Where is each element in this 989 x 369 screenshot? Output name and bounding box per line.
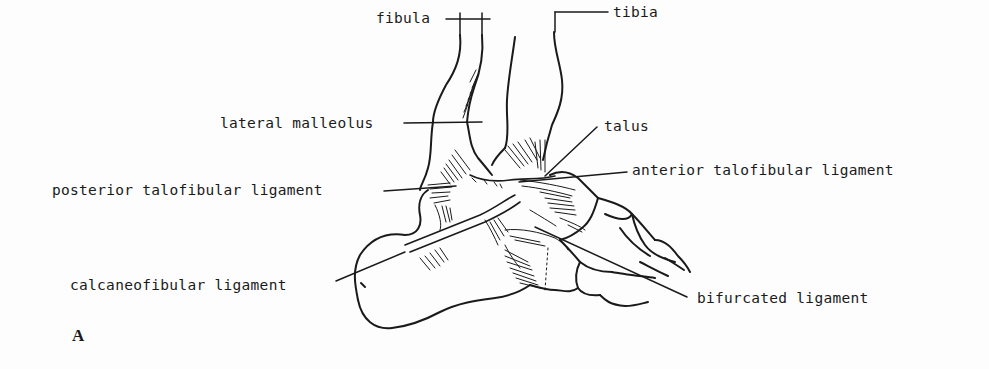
tibia-bone: [492, 32, 562, 172]
midfoot-bones: [530, 172, 690, 306]
label-talus: talus: [604, 119, 649, 134]
label-bifurcated-ligament: bifurcated ligament: [697, 291, 869, 306]
label-tibia: tibia: [613, 5, 658, 20]
lateral-malleolus-leader: [404, 122, 482, 123]
anatomy-figure: fibula tibia lateral malleolus talus pos…: [0, 0, 989, 369]
label-anterior-talofibular-ligament: anterior talofibular ligament: [632, 163, 894, 178]
panel-letter: A: [72, 327, 84, 344]
label-posterior-talofibular-ligament: posterior talofibular ligament: [52, 183, 323, 198]
talus-bone: [470, 175, 555, 188]
bifurcated-leader: [535, 227, 687, 297]
fibula-bone: [420, 35, 492, 190]
label-fibula: fibula: [376, 11, 430, 26]
calcaneofibular-leader: [336, 252, 405, 281]
label-calcaneofibular-ligament: calcaneofibular ligament: [70, 278, 287, 293]
talus-leader: [545, 127, 597, 176]
anterior-talofibular-leader: [519, 172, 627, 182]
label-lateral-malleolus: lateral malleolus: [220, 116, 374, 131]
ligament-hatching: [405, 180, 585, 290]
